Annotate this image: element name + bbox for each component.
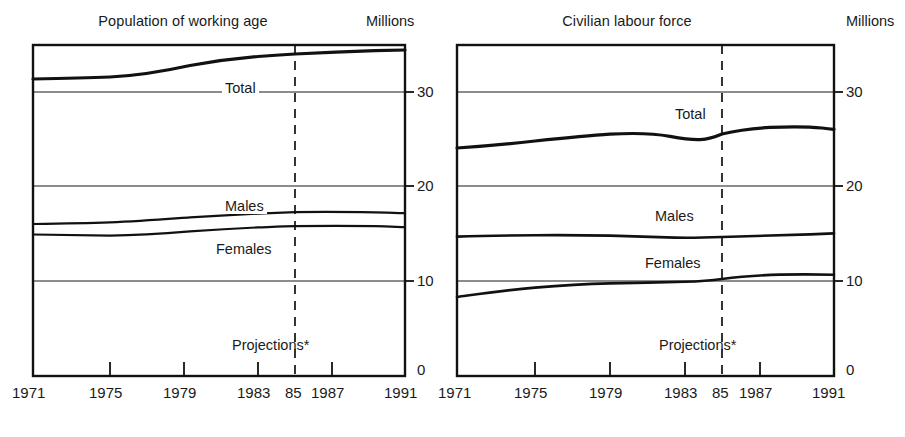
xtick-label-1979: 1979 [163,384,196,401]
xtick-label-1991: 1991 [812,384,845,401]
xtick-label-85: 85 [712,384,729,401]
figure-root: Population of working age Millions [0,0,905,437]
ytick-label-30: 30 [417,84,434,100]
series-line-males [33,212,405,224]
xtick-label-1975: 1975 [514,384,547,401]
xtick-label-1983: 1983 [237,384,270,401]
xtick-label-1975: 1975 [89,384,122,401]
series-label-females: Females [213,241,275,257]
ytick-label-10: 10 [417,273,434,289]
xtick-label-1991: 1991 [384,384,417,401]
projection-note: Projections* [232,337,309,353]
plot-area-population [0,0,455,437]
xtick-label-85: 85 [285,384,302,401]
chart-panel-population-of-working-age: Population of working age Millions [0,0,455,437]
series-line-females [33,226,405,236]
series-line-total [457,127,834,148]
ytick-label-20: 20 [417,178,434,194]
series-label-total: Total [672,106,709,122]
xtick-label-1983: 1983 [664,384,697,401]
ytick-label-20: 20 [846,178,863,194]
series-label-males: Males [652,208,697,224]
plot-frame [457,45,834,376]
ytick-label-0: 0 [417,362,425,378]
series-line-females [457,274,834,297]
series-label-males: Males [222,198,267,214]
series-line-males [457,233,834,237]
xtick-label-1987: 1987 [311,384,344,401]
series-label-females: Females [642,255,704,271]
ytick-label-30: 30 [846,84,863,100]
series-line-total [33,50,405,79]
series-label-total: Total [222,80,259,96]
chart-panel-civilian-labour-force: Civilian labour force Millions [450,0,905,437]
xtick-label-1979: 1979 [589,384,622,401]
xtick-label-1987: 1987 [739,384,772,401]
projection-note: Projections* [659,337,736,353]
plot-frame [33,45,405,376]
ytick-label-10: 10 [846,273,863,289]
xtick-label-1971: 1971 [12,384,45,401]
xtick-label-1971: 1971 [438,384,471,401]
ytick-label-0: 0 [846,362,854,378]
